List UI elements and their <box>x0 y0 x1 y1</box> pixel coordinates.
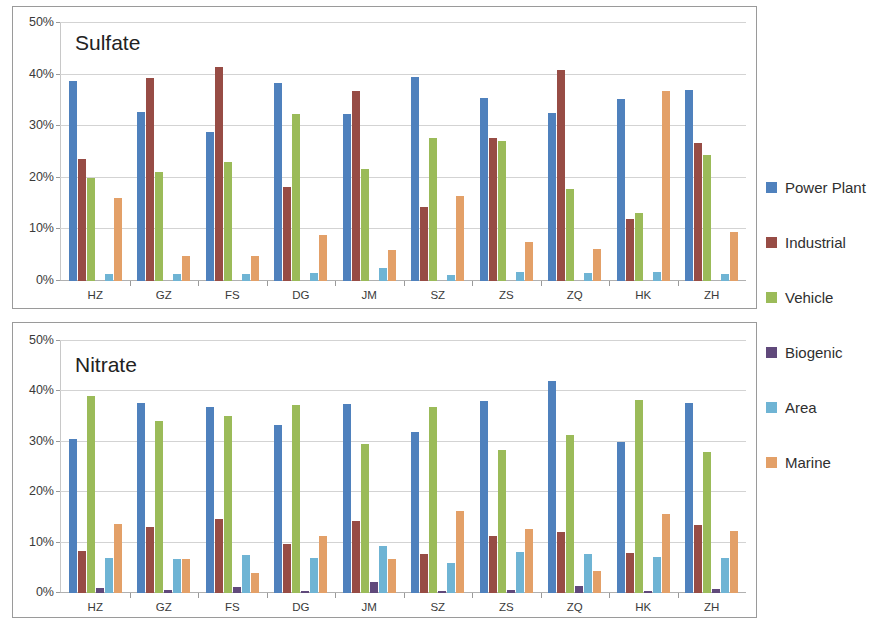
legend-item-biogenic[interactable]: Biogenic <box>766 325 884 380</box>
legend-item-power-plant[interactable]: Power Plant <box>766 160 884 215</box>
nitrate-bar <box>653 557 661 593</box>
sulfate-group-zh: ZH <box>678 23 747 281</box>
sulfate-bar <box>155 172 163 281</box>
nitrate-bar <box>96 588 104 593</box>
sulfate-bar <box>420 207 428 281</box>
nitrate-bar <box>114 524 122 593</box>
sulfate-bar <box>292 114 300 281</box>
nitrate-y-tick-label: 30% <box>29 434 54 448</box>
nitrate-bar <box>685 403 693 594</box>
nitrate-bar <box>343 404 351 593</box>
nitrate-bar <box>489 536 497 593</box>
sulfate-bar <box>274 83 282 281</box>
nitrate-bar <box>456 511 464 593</box>
sulfate-group-fs: FS <box>198 23 267 281</box>
nitrate-bar <box>411 432 419 593</box>
nitrate-bar <box>173 559 181 593</box>
sulfate-plot-area: 0%10%20%30%40%50% HZGZFSDGJMSZZSZQHKZH <box>60 23 746 281</box>
sulfate-bar <box>114 198 122 281</box>
sulfate-bar <box>584 273 592 281</box>
sulfate-bar <box>224 162 232 281</box>
sulfate-x-tick-label: DG <box>267 289 336 301</box>
nitrate-bar <box>319 536 327 593</box>
sulfate-group-sz: SZ <box>404 23 473 281</box>
nitrate-bar <box>703 452 711 593</box>
nitrate-bar <box>361 444 369 593</box>
legend-item-industrial[interactable]: Industrial <box>766 215 884 270</box>
nitrate-chart-frame: Nitrate 0%10%20%30%40%50% HZGZFSDGJMSZZS… <box>12 322 757 618</box>
nitrate-bar <box>370 582 378 593</box>
legend-swatch-icon <box>766 292 777 303</box>
sulfate-x-tick-label: ZH <box>678 289 747 301</box>
sulfate-x-tick-label: ZS <box>472 289 541 301</box>
sulfate-x-tick-label: GZ <box>130 289 199 301</box>
sulfate-chart-frame: Sulfate 0%10%20%30%40%50% HZGZFSDGJMSZZS… <box>12 6 757 309</box>
sulfate-bar <box>730 232 738 281</box>
sulfate-bar <box>635 213 643 281</box>
sulfate-y-tick-label: 30% <box>29 118 54 132</box>
nitrate-x-tick-label: FS <box>198 601 267 613</box>
nitrate-bar <box>730 531 738 593</box>
nitrate-bar <box>206 407 214 593</box>
nitrate-bar <box>78 551 86 593</box>
legend-item-marine[interactable]: Marine <box>766 435 884 490</box>
nitrate-tick-mark <box>56 340 60 341</box>
nitrate-bar <box>242 555 250 593</box>
legend-swatch-icon <box>766 457 777 468</box>
nitrate-tick-mark <box>56 542 60 543</box>
sulfate-bar <box>685 90 693 281</box>
nitrate-bar <box>635 400 643 593</box>
sulfate-bar <box>146 78 154 281</box>
nitrate-group-zq: ZQ <box>541 341 610 593</box>
sulfate-group-jm: JM <box>335 23 404 281</box>
legend-item-label: Industrial <box>785 234 846 251</box>
sulfate-x-tick-label: FS <box>198 289 267 301</box>
sulfate-bar <box>173 274 181 281</box>
sulfate-group-zs: ZS <box>472 23 541 281</box>
nitrate-x-tick-label: SZ <box>404 601 473 613</box>
sulfate-x-tick-label: ZQ <box>541 289 610 301</box>
sulfate-x-tick-label: SZ <box>404 289 473 301</box>
nitrate-tick-mark <box>56 390 60 391</box>
nitrate-plot-area: 0%10%20%30%40%50% HZGZFSDGJMSZZSZQHKZH <box>60 341 746 593</box>
sulfate-bar <box>251 256 259 281</box>
nitrate-bar <box>274 425 282 593</box>
nitrate-bar <box>292 405 300 593</box>
nitrate-y-tick-label: 10% <box>29 535 54 549</box>
sulfate-bar <box>87 178 95 281</box>
chart-legend: Power PlantIndustrialVehicleBiogenicArea… <box>766 160 884 490</box>
sulfate-bar <box>137 112 145 281</box>
nitrate-bar <box>87 396 95 593</box>
nitrate-bar <box>379 546 387 593</box>
nitrate-group-gz: GZ <box>130 341 199 593</box>
sulfate-group-gz: GZ <box>130 23 199 281</box>
nitrate-x-tick-label: GZ <box>130 601 199 613</box>
nitrate-group-fs: FS <box>198 341 267 593</box>
sulfate-bar <box>557 70 565 281</box>
nitrate-group-sz: SZ <box>404 341 473 593</box>
nitrate-x-tick-label: HK <box>609 601 678 613</box>
sulfate-bar <box>489 138 497 281</box>
legend-item-area[interactable]: Area <box>766 380 884 435</box>
nitrate-y-tick-label: 50% <box>29 333 54 347</box>
sulfate-bar <box>411 77 419 281</box>
nitrate-bar <box>548 381 556 593</box>
sulfate-bar <box>182 256 190 281</box>
nitrate-group-hz: HZ <box>61 341 130 593</box>
legend-swatch-icon <box>766 237 777 248</box>
sulfate-bar <box>721 274 729 281</box>
sulfate-tick-mark <box>56 125 60 126</box>
nitrate-bar <box>438 591 446 593</box>
nitrate-bar <box>617 442 625 593</box>
legend-item-vehicle[interactable]: Vehicle <box>766 270 884 325</box>
sulfate-y-tick-label: 0% <box>36 273 54 287</box>
nitrate-x-tick-label: DG <box>267 601 336 613</box>
sulfate-group-hz: HZ <box>61 23 130 281</box>
nitrate-group-hk: HK <box>609 341 678 593</box>
nitrate-bar <box>310 558 318 593</box>
legend-item-label: Biogenic <box>785 344 843 361</box>
sulfate-bar <box>653 272 661 281</box>
legend-item-label: Vehicle <box>785 289 833 306</box>
nitrate-group-zs: ZS <box>472 341 541 593</box>
sulfate-y-tick-label: 10% <box>29 221 54 235</box>
